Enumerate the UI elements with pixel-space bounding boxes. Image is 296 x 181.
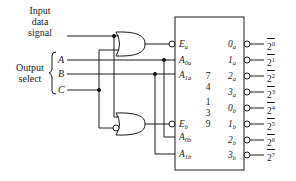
chip-number-digit: 9 [203,119,213,129]
pin-a1b: A1b [179,149,191,162]
output-bubble-6 [244,137,250,143]
pin-3b: 3b [228,150,236,163]
output-bubble-3 [244,89,250,95]
pin-3a: 3a [228,87,236,100]
output-label-4: 24 [267,102,275,116]
output-label-2: 22 [267,70,275,84]
select-brace [49,52,56,94]
pin-1a: 1a [228,55,236,68]
label-line: Input [20,5,60,16]
c-to-top-gate-wire [99,50,119,128]
ea-inversion-bubble [169,41,175,47]
pin-a0a: A0a [179,55,191,68]
pin-a0b: A0b [179,132,191,145]
pin-1b: 1b [228,119,236,132]
select-c-label: C [58,84,65,95]
input-data-signal-label: Input data signal [20,5,60,38]
output-label-5: 25 [267,118,275,132]
output-bubble-4 [244,105,250,111]
label-line: signal [20,27,60,38]
output-bubble-1 [244,57,250,63]
pin-2a: 2a [228,71,236,84]
label-line: select [10,73,50,84]
output-label-3: 23 [267,86,275,100]
junction-dot [97,88,100,91]
pin-a1a: A1a [179,70,191,83]
pin-2b: 2b [228,135,236,148]
output-select-label: Output select [10,62,50,84]
or-gate-bottom [116,113,145,135]
output-wires [244,41,264,158]
output-bubble-5 [244,121,250,127]
pin-0a: 0a [228,39,236,52]
chip-number-digit: 1 [203,97,213,107]
chip-number-digit: 7 [203,71,213,81]
output-label-6: 26 [267,134,275,148]
data-to-bottom-gate-wire [114,36,119,117]
output-label-0: 20 [267,38,275,52]
b-to-a1b-wire [155,74,175,154]
output-label-1: 21 [267,54,275,68]
chip-number-digit: 3 [203,108,213,118]
eb-inversion-bubble [169,121,175,127]
or-gate-top [116,32,145,56]
pin-0b: 0b [228,103,236,116]
junction-dot [153,72,156,75]
label-line: Output [10,62,50,73]
chip-number-digit: 4 [203,82,213,92]
select-a-label: A [58,54,64,65]
junction-dot [162,58,165,61]
output-bubble-7 [244,152,250,158]
output-bubble-0 [244,41,250,47]
bottom-gate-inversion-bubble [113,125,119,131]
label-line: data [20,16,60,27]
output-label-7: 27 [267,149,275,163]
pin-eb: Eb [179,119,188,132]
junction-dot [112,34,115,37]
output-bubble-2 [244,73,250,79]
select-b-label: B [58,68,64,79]
pin-ea: Ea [179,39,188,52]
